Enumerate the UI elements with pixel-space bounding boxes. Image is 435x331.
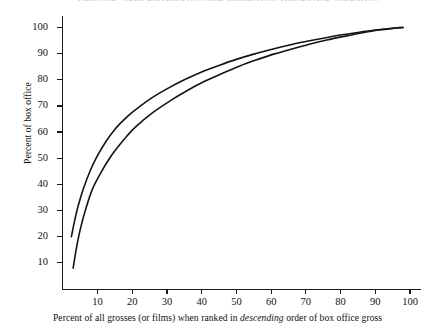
lower-concentration-curve: [73, 27, 403, 268]
curves-layer: [0, 0, 435, 331]
concentration-curve-figure: 102030405060708090100 102030405060708090…: [0, 0, 435, 331]
upper-concentration-curve: [71, 27, 403, 236]
